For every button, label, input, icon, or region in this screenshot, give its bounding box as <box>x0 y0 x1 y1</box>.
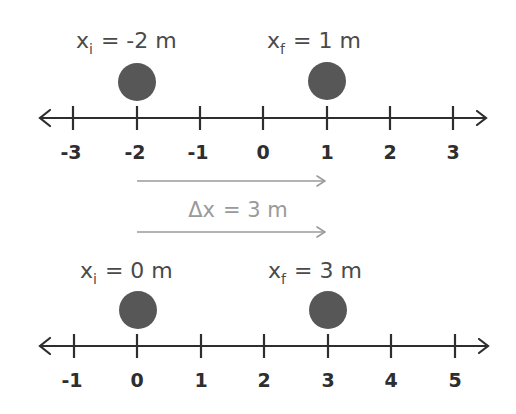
tick-label: -3 <box>60 141 81 163</box>
top-axis-tick-labels: -3 -2 -1 0 1 2 3 <box>60 141 459 163</box>
tick-label: 0 <box>130 369 143 391</box>
bottom-axis-tick-labels: -1 0 1 2 3 4 5 <box>61 369 461 391</box>
tick-label: 4 <box>384 369 397 391</box>
tick-label: -2 <box>124 141 145 163</box>
top-initial-position-label: xi= -2 m <box>76 28 177 57</box>
tick-label: 3 <box>446 141 459 163</box>
tick-label: 2 <box>257 369 270 391</box>
tick-label: -1 <box>61 369 82 391</box>
bottom-initial-dot <box>119 291 157 329</box>
tick-label: -1 <box>187 141 208 163</box>
displacement-indicator: Δx= 3 m <box>137 181 325 232</box>
bottom-final-dot <box>309 291 347 329</box>
top-final-dot <box>308 62 346 100</box>
tick-label: 3 <box>321 369 334 391</box>
tick-label: 1 <box>320 141 333 163</box>
top-number-line: xi= -2 m xf= 1 m -3 -2 -1 0 1 2 3 <box>40 28 486 163</box>
bottom-final-position-label: xf= 3 m <box>268 258 362 287</box>
top-initial-dot <box>118 63 156 101</box>
displacement-label: Δx= 3 m <box>188 198 288 222</box>
bottom-initial-position-label: xi= 0 m <box>80 258 173 287</box>
tick-label: 5 <box>448 369 461 391</box>
tick-label: 1 <box>194 369 207 391</box>
tick-label: 2 <box>383 141 396 163</box>
displacement-diagram: xi= -2 m xf= 1 m -3 -2 -1 0 1 2 3 <box>0 0 516 414</box>
tick-label: 0 <box>256 141 269 163</box>
top-final-position-label: xf= 1 m <box>267 28 361 57</box>
bottom-number-line: xi= 0 m xf= 3 m -1 0 1 2 3 4 5 <box>40 258 488 391</box>
